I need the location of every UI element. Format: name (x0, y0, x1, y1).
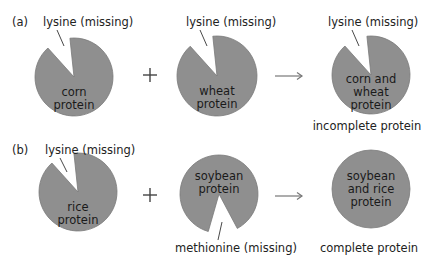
pie-inner-label: corn and (346, 72, 396, 86)
pie-wheat: wheatproteinlysine (missing) (177, 15, 276, 116)
arrow-icon-a (275, 73, 302, 80)
pie-inner-label: soybean (347, 169, 396, 183)
result-caption: incomplete protein (313, 119, 422, 133)
protein-complementation-diagram: (a) (b) cornproteinlysine (missing)wheat… (0, 0, 427, 266)
pie-inner-label: rice (67, 200, 88, 214)
pie-inner-label: protein (197, 97, 238, 111)
panel-a-pies: cornproteinlysine (missing)wheatproteinl… (35, 15, 421, 133)
pie-inner-label: corn (61, 85, 86, 99)
plus-sign-b (143, 188, 157, 202)
leader-line (218, 222, 222, 240)
missing-amino-acid-label: methionine (missing) (175, 241, 297, 255)
pie-inner-label: and rice (348, 182, 395, 196)
pie-inner-label: protein (199, 182, 240, 196)
missing-amino-acid-label: lysine (missing) (186, 15, 276, 29)
missing-amino-acid-label: lysine (missing) (45, 143, 135, 157)
panel-a-label: (a) (12, 15, 28, 29)
leader-line (200, 30, 207, 46)
pie-soybean: soybeanproteinmethionine (missing) (175, 155, 297, 255)
pie-corn: cornproteinlysine (missing) (35, 15, 133, 116)
missing-amino-acid-label: lysine (missing) (328, 15, 418, 29)
missing-amino-acid-label: lysine (missing) (43, 15, 133, 29)
leader-line (60, 158, 67, 172)
pie-inner-label: protein (58, 213, 99, 227)
pie-inner-label: protein (54, 98, 95, 112)
panel-b-pies: riceproteinlysine (missing)soybeanprotei… (39, 143, 418, 255)
pie-inner-label: protein (351, 98, 392, 112)
pie-corn-wheat: corn andwheatproteinlysine (missing)inco… (313, 15, 422, 133)
pie-inner-label: soybean (195, 169, 244, 183)
leader-line (352, 30, 359, 46)
result-caption: complete protein (320, 241, 418, 255)
pie-inner-label: wheat (199, 84, 235, 98)
pie-inner-label: protein (351, 195, 392, 209)
leader-line (57, 30, 64, 46)
panel-b-label: (b) (12, 143, 28, 157)
plus-sign-a (143, 68, 157, 82)
pie-inner-label: wheat (353, 85, 389, 99)
pie-soybean-rice: soybeanand riceproteincomplete protein (320, 150, 418, 255)
pie-rice: riceproteinlysine (missing) (39, 143, 135, 231)
arrow-icon-b (275, 193, 302, 200)
